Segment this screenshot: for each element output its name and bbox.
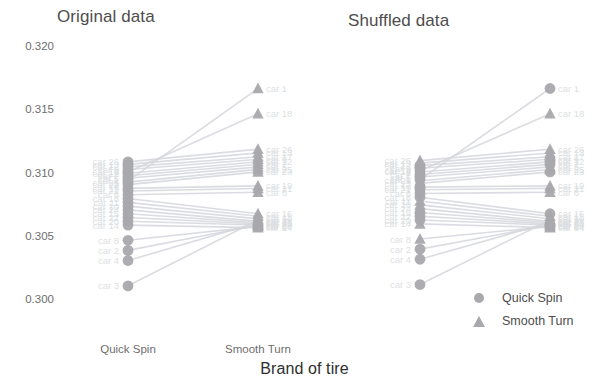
data-point-triangle [252, 143, 263, 154]
series-label-left: car 7 [390, 169, 411, 180]
data-point-triangle [414, 157, 425, 168]
series-label-left: car 12 [93, 168, 119, 179]
series-label-right: car 11 [558, 211, 584, 222]
data-point-triangle [544, 219, 555, 230]
data-point-triangle [544, 214, 555, 225]
connector-line [128, 157, 258, 167]
series-label-right: car 22 [266, 218, 292, 229]
connector-line [420, 153, 550, 163]
data-point-circle [415, 207, 426, 218]
data-point-circle [415, 160, 426, 171]
data-point-circle [123, 212, 134, 223]
series-label-left: car 3 [390, 279, 411, 290]
data-point-triangle [414, 177, 425, 188]
series-label-right: car 12 [266, 156, 292, 167]
data-point-circle [415, 192, 426, 203]
data-point-triangle [252, 151, 263, 162]
data-point-triangle [252, 220, 263, 231]
connector-line [420, 224, 550, 228]
series-label-left: car 14 [93, 220, 119, 231]
connector-line [128, 225, 258, 228]
data-point-circle [415, 169, 426, 180]
connector-line [128, 210, 258, 221]
data-point-triangle [252, 158, 263, 169]
data-point-circle [545, 83, 556, 94]
series-label-right: car 18 [558, 108, 584, 119]
data-point-triangle [252, 147, 263, 158]
series-label-right: car 2 [558, 220, 579, 231]
series-label-right: car 8 [266, 221, 287, 232]
data-point-circle [123, 164, 134, 175]
connector-line [128, 186, 258, 189]
series-label-left: car 13 [385, 158, 411, 169]
connector-line [128, 162, 258, 173]
series-label-right: car 2 [266, 220, 287, 231]
data-point-triangle [414, 195, 425, 206]
data-point-triangle [544, 180, 555, 191]
series-label-left: car 17 [93, 161, 119, 172]
connector-line [420, 167, 550, 177]
connector-line [128, 192, 258, 195]
series-label-left: car 23 [93, 179, 119, 190]
data-point-circle [123, 220, 134, 231]
x-tick-label-quick-spin: Quick Spin [68, 343, 188, 355]
legend-item-smooth-turn[interactable]: Smooth Turn [470, 309, 600, 332]
panel-shuffled: car 1car 1car 18car 18car 26car 26car 13… [385, 83, 585, 290]
y-tick-label: 0.305 [6, 230, 54, 242]
series-label-left: car 19 [385, 182, 411, 193]
data-point-circle [545, 154, 556, 165]
connector-line [128, 114, 258, 172]
connector-line [420, 186, 550, 187]
series-label-left: car 10 [385, 199, 411, 210]
data-point-triangle [414, 166, 425, 177]
series-label-left: car 22 [385, 211, 411, 222]
data-point-triangle [544, 182, 555, 193]
data-point-triangle [252, 213, 263, 224]
panel-title-original: Original data [57, 7, 155, 27]
data-point-triangle [544, 217, 555, 228]
data-point-circle [415, 172, 426, 183]
series-label-left: car 14 [385, 218, 411, 229]
data-point-triangle [252, 218, 263, 229]
series-label-left: car 25 [385, 175, 411, 186]
data-point-circle [415, 279, 426, 290]
connector-line [420, 192, 550, 193]
data-point-triangle [544, 143, 555, 154]
data-point-triangle [544, 217, 555, 228]
data-point-triangle [252, 210, 263, 221]
connector-line [420, 149, 550, 160]
series-label-left: car 15 [93, 208, 119, 219]
data-point-circle [123, 235, 134, 246]
y-tick-label: 0.320 [6, 40, 54, 52]
data-point-circle [415, 182, 426, 193]
connector-line [420, 172, 550, 183]
connector-line [420, 88, 550, 179]
legend-item-quick-spin[interactable]: Quick Spin [470, 286, 600, 309]
data-point-triangle [414, 175, 425, 186]
data-point-triangle [414, 218, 425, 229]
data-point-circle [123, 186, 134, 197]
connector-line [128, 199, 258, 214]
data-point-triangle [252, 222, 263, 233]
connector-line [128, 149, 258, 162]
data-point-triangle [252, 182, 263, 193]
data-point-circle [123, 201, 134, 212]
series-label-right: car 23 [266, 166, 292, 177]
series-label-right: car 6 [558, 187, 579, 198]
series-label-right: car 25 [266, 164, 292, 175]
data-point-circle [545, 220, 556, 231]
data-point-circle [123, 170, 134, 181]
y-tick-label: 0.300 [6, 293, 54, 305]
series-label-right: car 19 [266, 180, 292, 191]
series-label-left: car 5 [390, 172, 411, 183]
legend-label: Quick Spin [502, 291, 562, 305]
connector-line [420, 157, 550, 166]
series-label-right: car 16 [266, 208, 292, 219]
data-point-triangle [544, 108, 555, 119]
series-label-left: car 11 [385, 196, 411, 207]
series-label-left: car 17 [385, 160, 411, 171]
connector-line [128, 169, 258, 182]
series-label-left: car 20 [93, 216, 119, 227]
data-point-circle [545, 208, 556, 219]
connector-line [420, 212, 550, 222]
